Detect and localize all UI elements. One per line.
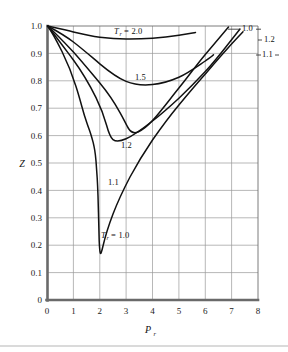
right-edge-label-1: 1.0 — [242, 23, 253, 33]
y-tick-0-4: 0.4 — [31, 186, 43, 196]
y-tick-0-1: 0.1 — [31, 268, 42, 278]
x-tick-3: 3 — [124, 306, 129, 316]
y-tick-1-0: 1.0 — [31, 21, 43, 31]
x-tick-5: 5 — [177, 306, 182, 316]
y-tick-0-7: 0.7 — [31, 103, 43, 113]
inline-label-tr-2-0-eq: = — [124, 26, 129, 36]
y-tick-0-9: 0.9 — [31, 49, 43, 59]
y-axis-title: Z — [19, 158, 25, 169]
x-tick-2: 2 — [98, 306, 103, 316]
y-tick-0-6: 0.6 — [31, 131, 43, 141]
right-edge-label-3: 1.1 — [262, 49, 273, 59]
x-tick-8: 8 — [256, 306, 261, 316]
inline-label-tr-1-0-value: 1.0 — [119, 230, 130, 240]
inline-label-tr-1-2: 1.2 — [121, 140, 132, 150]
x-tick-0: 0 — [45, 306, 50, 316]
chart-canvas: 1.0 1.2 1.1 T r = 2.0 1.5 1.2 1.1 T r = … — [0, 0, 288, 352]
x-tick-1: 1 — [71, 306, 76, 316]
x-tick-7: 7 — [229, 306, 234, 316]
x-tick-4: 4 — [150, 306, 155, 316]
inline-label-tr-1-1: 1.1 — [108, 177, 119, 187]
right-edge-label-2: 1.2 — [264, 34, 275, 44]
inline-label-tr-2-0: T r = 2.0 — [114, 26, 142, 37]
y-tick-0-8: 0.8 — [31, 76, 43, 86]
y-tick-0-2: 0.2 — [31, 240, 42, 250]
inline-label-tr-2-0-value: 2.0 — [132, 26, 143, 36]
y-tick-0: 0 — [38, 295, 43, 305]
x-axis-title-main: P — [144, 324, 151, 335]
inline-label-tr-1-0-eq: = — [111, 230, 116, 240]
inline-label-tr-1-5: 1.5 — [135, 72, 146, 82]
compressibility-chart-figure: 1.0 1.2 1.1 T r = 2.0 1.5 1.2 1.1 T r = … — [0, 0, 288, 352]
y-tick-0-3: 0.3 — [31, 213, 43, 223]
x-tick-6: 6 — [203, 306, 208, 316]
y-tick-0-5: 0.5 — [31, 158, 43, 168]
inline-label-tr-1-0: T r = 1.0 — [101, 230, 129, 241]
